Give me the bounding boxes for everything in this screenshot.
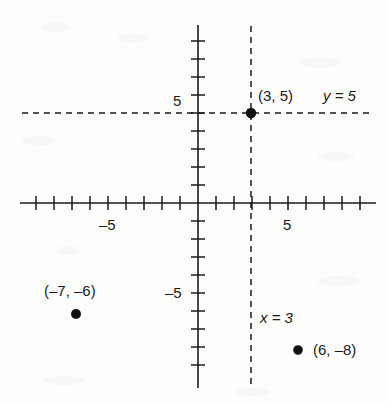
label-line-y-equals-5: y = 5	[323, 88, 356, 103]
label-point-6-neg8: (6, –8)	[313, 342, 356, 357]
plotted-point-neg7-neg6	[71, 309, 81, 319]
x-axis-tick-label-pos5: 5	[283, 217, 291, 232]
y-axis-tick-label-pos5: 5	[173, 93, 181, 108]
coordinate-plane-figure: (3, 5) y = 5 x = 3 (–7, –6) (6, –8) –5 5…	[0, 0, 388, 403]
plotted-point-3-5	[246, 108, 256, 118]
label-line-x-equals-3: x = 3	[260, 310, 293, 325]
y-axis-tick-label-neg5: –5	[165, 285, 182, 300]
x-axis-tick-label-neg5: –5	[99, 217, 116, 232]
plotted-point-6-neg8	[293, 345, 303, 355]
label-point-3-5: (3, 5)	[258, 88, 293, 103]
label-point-neg7-neg6: (–7, –6)	[44, 283, 96, 298]
